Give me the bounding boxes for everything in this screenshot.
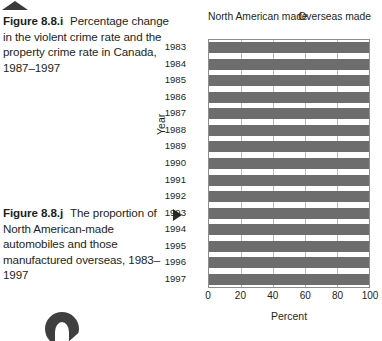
bar-row <box>209 274 369 285</box>
bar-series-container <box>209 40 369 287</box>
y-axis-tick-label: 1990 <box>165 157 186 168</box>
bar-segment <box>209 75 369 86</box>
y-axis-tick-labels: 1983198419851986198719881989199019911992… <box>168 39 188 288</box>
bar-segment <box>209 59 369 70</box>
bar-segment <box>209 241 369 252</box>
x-axis-tick-labels: 020406080100 <box>208 290 370 304</box>
x-axis-title: Percent <box>208 310 370 322</box>
y-axis-tick-label: 1995 <box>165 240 186 251</box>
y-axis-tick-label: 1996 <box>165 256 186 267</box>
bar-segment <box>209 208 369 219</box>
y-axis-tick-label: 1997 <box>165 273 186 284</box>
legend-north-american-made: North American made <box>208 10 308 23</box>
y-axis-tick-label: 1984 <box>165 58 186 69</box>
x-axis-tick-label: 20 <box>235 290 246 302</box>
figure-caption-i-label: Figure 8.8.i <box>3 14 63 27</box>
bar-segment <box>209 141 369 152</box>
bar-row <box>209 42 369 53</box>
bar-segment <box>209 92 369 103</box>
bar-row <box>209 224 369 235</box>
page-number-glyph-counter <box>55 322 69 341</box>
bar-segment <box>209 42 369 53</box>
bar-segment <box>209 224 369 235</box>
bar-row <box>209 257 369 268</box>
y-axis-tick-label: 1986 <box>165 91 186 102</box>
x-axis-tick-label: 100 <box>362 290 379 302</box>
triangle-up-marker <box>2 1 28 10</box>
bar-row <box>209 208 369 219</box>
y-axis-tick-label: 1992 <box>165 190 186 201</box>
chart-legend: North American made Overseas made <box>208 10 371 38</box>
bar-row <box>209 125 369 136</box>
y-axis-tick-label: 1989 <box>165 140 186 151</box>
figure-caption-j-label: Figure 8.8.j <box>3 206 63 219</box>
y-axis-tick-label: 1985 <box>165 74 186 85</box>
bar-segment <box>209 274 369 285</box>
bar-segment <box>209 191 369 202</box>
bar-row <box>209 158 369 169</box>
plot-area <box>208 39 370 288</box>
bar-row <box>209 141 369 152</box>
bar-row <box>209 108 369 119</box>
figure-caption-i: Figure 8.8.iPercentage change in the vio… <box>3 13 175 75</box>
bar-segment <box>209 158 369 169</box>
bar-segment <box>209 175 369 186</box>
bar-row <box>209 191 369 202</box>
y-axis-tick-label: 1988 <box>165 124 186 135</box>
x-axis-tick-label: 40 <box>267 290 278 302</box>
x-axis-tick-label: 60 <box>300 290 311 302</box>
x-axis-tick-label: 0 <box>205 290 211 302</box>
x-axis-tick-label: 80 <box>332 290 343 302</box>
y-axis-tick-label: 1991 <box>165 174 186 185</box>
y-axis-tick-label: 1994 <box>165 223 186 234</box>
stacked-bar-chart: North American made Overseas made Year 1… <box>188 10 380 335</box>
bar-segment <box>209 257 369 268</box>
bar-row <box>209 92 369 103</box>
bar-segment <box>209 125 369 136</box>
y-axis-tick-label: 1987 <box>165 107 186 118</box>
bar-segment <box>209 108 369 119</box>
y-axis-tick-label: 1993 <box>165 207 186 218</box>
bar-row <box>209 175 369 186</box>
bar-row <box>209 75 369 86</box>
legend-overseas-made: Overseas made <box>298 10 371 23</box>
bar-row <box>209 241 369 252</box>
y-axis-tick-label: 1983 <box>165 41 186 52</box>
bar-row <box>209 59 369 70</box>
figure-caption-j: Figure 8.8.jThe proportion of North Amer… <box>3 205 175 283</box>
